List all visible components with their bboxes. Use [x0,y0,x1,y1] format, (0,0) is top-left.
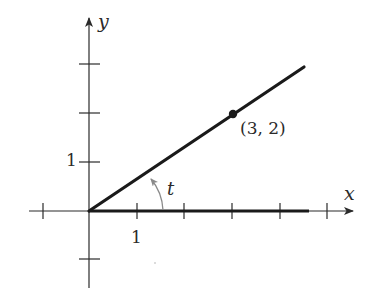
x-tick-label: 1 [131,229,142,246]
point-marker [229,110,237,118]
diagram-canvas: y x 1 1 (3, 2) t [0,0,378,296]
speck [154,262,156,264]
x-axis-label: x [344,184,355,203]
y-tick-label: 1 [66,152,77,169]
point-label: (3, 2) [240,120,286,137]
terminal-ray [89,67,304,211]
angle-label: t [167,180,174,198]
angle-arc [151,179,163,210]
y-axis-label: y [98,12,109,31]
coordinate-plane [0,0,378,296]
